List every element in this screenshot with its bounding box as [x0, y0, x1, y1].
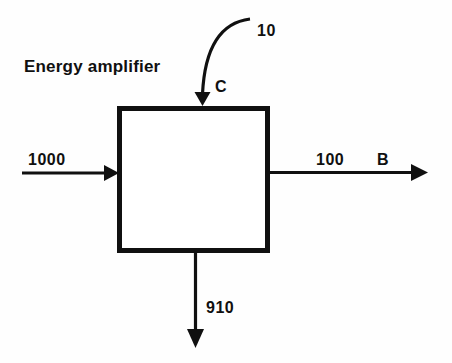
output-flow-port-label: B	[377, 152, 389, 168]
diagram-canvas: Energy amplifier 10 C 1000 100 B 910	[0, 0, 452, 363]
loss-flow-value-label: 910	[206, 300, 234, 316]
top-flow-value-label: 10	[257, 23, 276, 39]
output-flow-value-label: 100	[316, 152, 344, 168]
top-flow-port-label: C	[215, 79, 227, 95]
input-flow-value-label: 1000	[28, 152, 66, 168]
energy-amplifier-block	[120, 109, 268, 251]
loss-flow-arrow	[187, 252, 204, 348]
diagram-title: Energy amplifier	[24, 58, 160, 75]
output-flow-arrow	[269, 164, 428, 181]
